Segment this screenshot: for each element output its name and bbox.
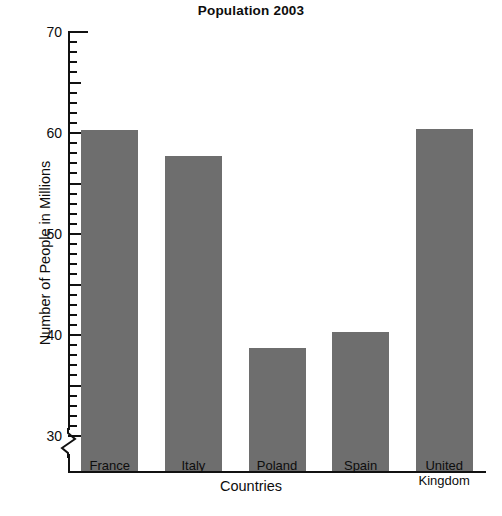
x-tick-label: Spain	[319, 458, 403, 473]
y-tick-minor	[68, 112, 77, 114]
y-tick-minor	[68, 172, 77, 174]
y-tick-minor	[68, 41, 77, 43]
x-tick-label: France	[68, 458, 152, 473]
y-tick-minor	[68, 152, 77, 154]
y-tick-minor	[68, 395, 77, 397]
y-tick-major: 70	[68, 31, 88, 33]
y-tick-minor	[68, 51, 77, 53]
y-tick-minor	[68, 324, 77, 326]
y-tick-minor	[68, 284, 81, 286]
y-tick-minor	[68, 253, 77, 255]
y-tick-minor	[68, 203, 77, 205]
y-tick-minor	[68, 415, 77, 417]
y-tick-minor	[68, 82, 81, 84]
y-tick-minor	[68, 273, 77, 275]
y-tick-minor	[68, 405, 77, 407]
y-tick-label: 30	[46, 428, 62, 444]
y-tick-label: 40	[46, 327, 62, 343]
y-axis-title: Number of People in Millions	[37, 103, 53, 403]
y-tick-minor	[68, 102, 77, 104]
y-tick-minor	[68, 385, 81, 387]
chart-title: Population 2003	[0, 3, 502, 18]
bar-chart-figure: Population 2003 Number of People in Mill…	[0, 0, 502, 516]
y-tick-minor	[68, 193, 77, 195]
y-tick-minor	[68, 263, 77, 265]
y-tick-minor	[68, 364, 77, 366]
y-tick-minor	[68, 142, 77, 144]
y-tick-label: 60	[46, 125, 62, 141]
x-tick-label-line: United	[402, 458, 486, 473]
y-tick-minor	[68, 425, 77, 427]
y-tick-label: 70	[46, 24, 62, 40]
y-tick-minor	[68, 162, 77, 164]
x-tick-label-line: France	[68, 458, 152, 473]
bar	[416, 129, 473, 471]
y-tick-label: 50	[46, 226, 62, 242]
y-tick-minor	[68, 223, 77, 225]
y-tick-minor	[68, 61, 77, 63]
x-tick-label-line: Italy	[152, 458, 236, 473]
y-tick-minor	[68, 122, 77, 124]
bar	[165, 156, 222, 471]
y-tick-minor	[68, 314, 77, 316]
x-tick-label: Italy	[152, 458, 236, 473]
x-axis-title: Countries	[0, 478, 502, 494]
y-tick-minor	[68, 354, 77, 356]
bar	[249, 348, 306, 471]
y-tick-minor	[68, 344, 77, 346]
bar	[81, 130, 138, 471]
plot-area: 3040506070	[68, 20, 486, 472]
y-tick-minor	[68, 213, 77, 215]
y-tick-minor	[68, 71, 77, 73]
y-tick-minor	[68, 183, 81, 185]
y-tick-minor	[68, 374, 77, 376]
y-tick-minor	[68, 304, 77, 306]
x-tick-label-line: Spain	[319, 458, 403, 473]
x-tick-label-line: Poland	[235, 458, 319, 473]
y-tick-minor	[68, 294, 77, 296]
x-tick-label: Poland	[235, 458, 319, 473]
y-tick-minor	[68, 243, 77, 245]
bar	[332, 332, 389, 471]
y-tick-minor	[68, 92, 77, 94]
